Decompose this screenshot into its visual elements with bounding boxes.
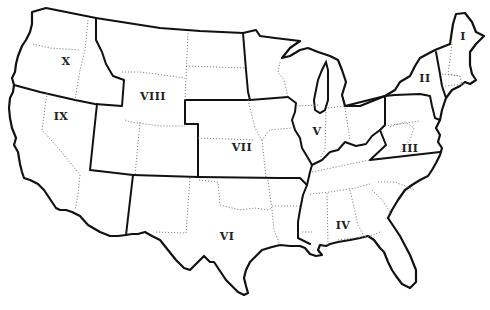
region-label-ii: II — [419, 72, 430, 85]
region-label-v: V — [312, 125, 321, 138]
region-label-iv: IV — [336, 219, 351, 232]
region-label-x: X — [61, 55, 70, 68]
region-label-vi: VI — [220, 230, 235, 243]
region-label-viii: VIII — [140, 90, 166, 103]
region-label-i: I — [460, 30, 466, 43]
region-label-iii: III — [402, 142, 419, 155]
region-label-ix: IX — [54, 110, 69, 123]
us-regions-map — [0, 0, 490, 310]
region-label-vii: VII — [232, 141, 252, 154]
